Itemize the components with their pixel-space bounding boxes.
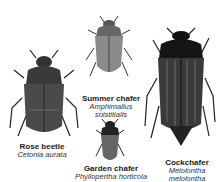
rose-beetle-label: Rose beetle Cetonia aurata	[4, 143, 80, 159]
scientific-name: Cetonia aurata	[4, 151, 80, 159]
garden-chafer-illustration	[94, 118, 126, 166]
summer-chafer-label: Summer chafer Amphimallus solstitialis	[76, 95, 146, 119]
beetle-illustration: Summer chafer Amphimallus solstitialis G…	[0, 0, 221, 182]
summer-chafer-illustration	[84, 14, 134, 82]
rose-beetle-illustration	[8, 48, 80, 140]
garden-chafer-label: Garden chafer Phyllopertha horticola	[66, 165, 156, 181]
scientific-name: melolontha	[154, 175, 220, 182]
scientific-name: Phyllopertha horticola	[66, 173, 156, 181]
cockchafer-label: Cockchafer Melolontha melolontha	[154, 159, 220, 182]
cockchafer-illustration	[143, 26, 219, 152]
